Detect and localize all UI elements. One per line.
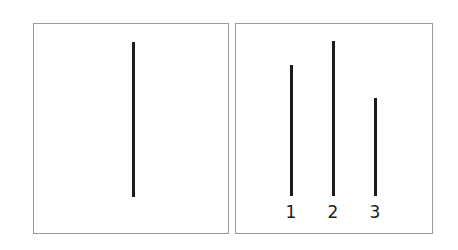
comparison-line-2[interactable]	[332, 41, 335, 196]
comparison-line-1-label: 1	[278, 202, 304, 222]
comparison-line-1[interactable]	[290, 65, 293, 196]
comparison-line-2-label: 2	[320, 202, 346, 222]
comparison-line-3-label: 3	[362, 202, 388, 222]
figure-canvas: 1 2 3	[0, 0, 458, 250]
comparison-panel: 1 2 3	[235, 23, 433, 234]
standard-line[interactable]	[132, 42, 135, 197]
standard-panel	[33, 23, 229, 234]
comparison-line-3[interactable]	[374, 98, 377, 196]
